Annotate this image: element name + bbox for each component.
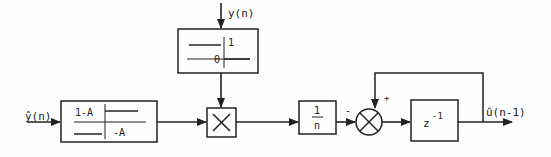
output-label: û(n-1) <box>486 106 526 119</box>
quantizer-left-upper-label: 1-A <box>75 107 93 118</box>
feedback-path <box>375 73 483 122</box>
multiplier-block <box>207 108 236 137</box>
delay-block: z -1 <box>411 100 458 141</box>
top-input: y(n) <box>221 3 255 28</box>
summer-minus-sign: - <box>345 105 351 116</box>
quantizer-left-block: 1-A -A <box>61 101 157 142</box>
summer-plus-sign: + <box>384 93 390 103</box>
gain-block: 1 n <box>299 101 336 134</box>
top-input-label: y(n) <box>228 7 255 20</box>
delay-base: z <box>423 117 430 130</box>
quantizer-top-lower-label: 0 <box>214 54 220 65</box>
quantizer-top-block: 1 0 <box>178 29 258 73</box>
block-diagram: ŷ(n) 1-A -A y(n) 1 0 1 <box>0 0 551 157</box>
summer-junction <box>356 109 382 135</box>
quantizer-top-upper-label: 1 <box>228 37 234 48</box>
quantizer-left-lower-label: -A <box>113 127 125 138</box>
gain-numerator: 1 <box>314 105 320 116</box>
delay-exponent: -1 <box>432 111 443 121</box>
gain-denominator: n <box>314 120 320 131</box>
left-input-label: ŷ(n) <box>25 110 52 123</box>
left-input: ŷ(n) <box>25 110 60 123</box>
